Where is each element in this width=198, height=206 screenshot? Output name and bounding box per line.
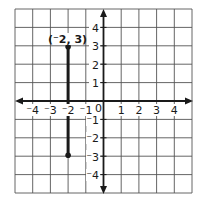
y-label-4: 4	[92, 22, 99, 35]
x-label-1: 1	[118, 104, 125, 117]
coordinate-grid-svg: (⁻2, 3) ⁻4 ⁻3 ⁻2 ⁻1 0 1 2 3 4 4 3 2 1 ⁻1…	[0, 0, 198, 206]
x-label-neg2: ⁻2	[62, 104, 75, 117]
y-label-3: 3	[92, 40, 99, 53]
x-label-2: 2	[135, 104, 142, 117]
point-b	[65, 152, 71, 158]
y-label-1: 1	[92, 77, 99, 90]
x-label-neg4: ⁻4	[26, 104, 39, 117]
coordinate-plane: (⁻2, 3) ⁻4 ⁻3 ⁻2 ⁻1 0 1 2 3 4 4 3 2 1 ⁻1…	[0, 0, 198, 206]
y-label-neg4: ⁻4	[86, 169, 99, 182]
x-label-neg3: ⁻3	[44, 104, 57, 117]
point-a-label: (⁻2, 3)	[48, 33, 87, 46]
y-label-neg1: ⁻1	[86, 114, 99, 127]
y-label-neg3: ⁻3	[86, 151, 99, 164]
y-label-neg2: ⁻2	[86, 132, 99, 145]
x-label-3: 3	[153, 104, 160, 117]
x-label-4: 4	[171, 104, 178, 117]
y-label-2: 2	[92, 59, 99, 72]
